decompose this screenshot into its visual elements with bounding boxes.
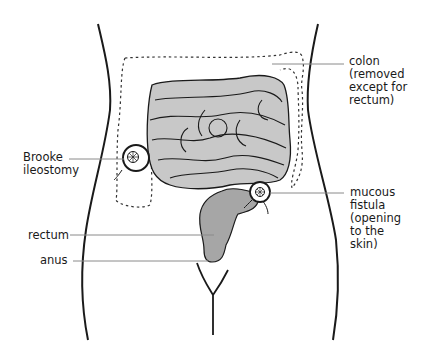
brooke-ileostomy-stoma xyxy=(114,145,149,180)
label-colon: colon (removed except for rectum) xyxy=(349,55,407,107)
groin-line xyxy=(197,263,228,335)
label-anus: anus xyxy=(40,254,68,267)
label-rectum: rectum xyxy=(28,229,69,242)
body-outline-left xyxy=(82,24,110,340)
label-brooke-ileostomy: Brooke ileostomy xyxy=(23,151,79,177)
body-outline-right xyxy=(308,24,339,340)
rectum xyxy=(200,189,258,262)
label-mucous-fistula: mucous fistula (opening to the skin) xyxy=(350,186,401,251)
